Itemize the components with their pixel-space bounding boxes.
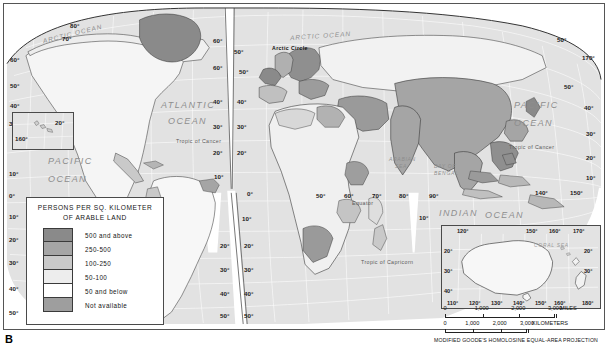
legend-swatch bbox=[43, 256, 73, 270]
legend-row: Not available bbox=[43, 298, 157, 312]
scale-tick-label: 1,000 bbox=[465, 320, 479, 326]
scale-line bbox=[445, 314, 555, 318]
scale-bar-miles: 01,0002,0003,000MILES bbox=[437, 306, 602, 321]
scale-tick-label: 2,000 bbox=[493, 320, 507, 326]
scale-tick bbox=[501, 329, 502, 333]
legend-row: 500 and above bbox=[43, 228, 157, 242]
legend-label: 50-100 bbox=[85, 274, 107, 281]
scale-tick bbox=[473, 329, 474, 333]
legend-row: 50-100 bbox=[43, 270, 157, 284]
scale-line bbox=[445, 329, 527, 333]
legend-swatch bbox=[43, 242, 73, 256]
scale-tick bbox=[556, 314, 557, 318]
legend-swatch bbox=[43, 228, 73, 242]
world-map: ARCTIC OCEANARCTIC OCEANATLANTICOCEANPAC… bbox=[3, 3, 605, 330]
legend-swatch bbox=[43, 298, 73, 312]
scale-tick bbox=[528, 329, 529, 333]
map-legend: PERSONS PER SQ. KILOMETER OF ARABLE LAND… bbox=[26, 197, 164, 325]
legend-label: 100-250 bbox=[85, 260, 111, 267]
legend-title-line2: OF ARABLE LAND bbox=[33, 213, 157, 223]
hawaii-inset-graphic bbox=[13, 113, 73, 150]
legend-title-line1: PERSONS PER SQ. KILOMETER bbox=[33, 203, 157, 213]
legend-row: 50 and below bbox=[43, 284, 157, 298]
scale-tick bbox=[483, 314, 484, 318]
legend-swatch bbox=[43, 284, 73, 298]
australia-inset-graphic bbox=[442, 226, 600, 309]
figure-label: B bbox=[5, 333, 13, 345]
legend-swatch bbox=[43, 270, 73, 284]
legend-label: 500 and above bbox=[85, 232, 133, 239]
scale-tick-label: 0 bbox=[443, 320, 446, 326]
legend-label: 250-500 bbox=[85, 246, 111, 253]
scale-tick-label: 0 bbox=[443, 305, 446, 311]
scale-tick-label: 2,000 bbox=[511, 305, 525, 311]
australia-inset-map: CORAL SEA 120° 150° 160° 170° 20° 30° 40… bbox=[441, 225, 601, 309]
scale-tick bbox=[519, 314, 520, 318]
hawaii-inset-map: 160° 20° bbox=[12, 112, 74, 150]
projection-note: MODIFIED GOODE'S HOMOLOSINE EQUAL-AREA P… bbox=[434, 337, 598, 343]
legend-class-list: 500 and above250-500100-25050-10050 and … bbox=[33, 228, 157, 312]
scale-unit-label: MILES bbox=[560, 305, 577, 311]
figure-panel: ARCTIC OCEANARCTIC OCEANATLANTICOCEANPAC… bbox=[0, 0, 608, 350]
legend-label: Not available bbox=[85, 302, 127, 309]
legend-row: 100-250 bbox=[43, 256, 157, 270]
scale-tick-label: 1,000 bbox=[475, 305, 489, 311]
legend-row: 250-500 bbox=[43, 242, 157, 256]
scale-bar-kilometers: 01,0002,0003,000KILOMETERS bbox=[437, 321, 602, 336]
legend-label: 50 and below bbox=[85, 288, 128, 295]
scale-unit-label: KILOMETERS bbox=[532, 320, 568, 326]
